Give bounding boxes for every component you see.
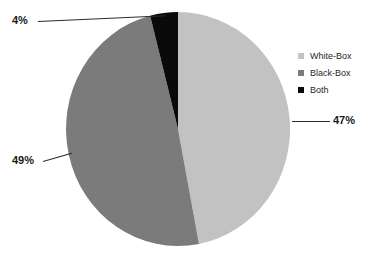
legend-item-black-box: Black-Box <box>298 65 352 81</box>
pie-svg <box>66 12 290 246</box>
pie-chart-figure: 4% 49% 47% White-Box Black-Box Both <box>0 0 371 255</box>
legend-item-both: Both <box>298 82 352 98</box>
callout-black-box-percent: 49% <box>12 154 34 166</box>
pie-slices-group <box>66 12 290 246</box>
pie-chart-canvas <box>66 12 290 246</box>
legend-swatch-both-icon <box>298 87 304 93</box>
pie-slice-white-box <box>178 12 290 244</box>
legend-swatch-black-box-icon <box>298 70 304 76</box>
legend-label-black-box: Black-Box <box>310 68 351 78</box>
callout-white-box-percent: 47% <box>333 114 355 126</box>
legend-swatch-white-box-icon <box>298 53 304 59</box>
legend-label-white-box: White-Box <box>310 51 352 61</box>
legend-label-both: Both <box>310 85 329 95</box>
chart-legend: White-Box Black-Box Both <box>298 48 352 99</box>
leader-line-white-box <box>292 121 330 122</box>
legend-item-white-box: White-Box <box>298 48 352 64</box>
callout-both-percent: 4% <box>12 14 28 26</box>
